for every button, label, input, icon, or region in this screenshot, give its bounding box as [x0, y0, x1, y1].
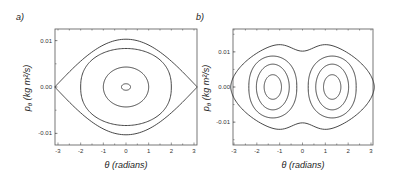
curve-right-orbit-inner	[324, 75, 341, 100]
curve-separatrix	[55, 39, 197, 135]
panel-a-x-ticks: -3-2-10123	[55, 29, 196, 154]
y-tick-label: 0.00	[40, 84, 52, 90]
x-tick-label: 1	[147, 148, 151, 154]
x-tick-label: 0	[301, 148, 305, 154]
curve-orbit-large	[81, 48, 172, 125]
x-tick-label: -1	[101, 148, 107, 154]
panel-a-frame	[55, 29, 197, 145]
x-tick-label: 1	[324, 148, 328, 154]
panel-b-y-axis-label-units: (kg m²/s)	[201, 65, 211, 103]
panel-a-curves	[55, 39, 197, 135]
x-tick-label: 3	[192, 148, 196, 154]
x-tick-label: 3	[369, 148, 373, 154]
curve-left-orbit-inner	[264, 75, 281, 100]
panel-b-x-axis-label: θ (radians)	[282, 160, 325, 170]
panel-b-frame	[233, 29, 373, 145]
x-tick-label: -2	[78, 148, 84, 154]
panel-b-label: b)	[196, 12, 204, 22]
panel-a-x-axis-label: θ (radians)	[105, 160, 148, 170]
curve-orbit-small	[121, 84, 130, 91]
panel-a-y-axis-label-units: (kg m²/s)	[22, 65, 32, 103]
panel-b-curves	[231, 45, 374, 130]
x-tick-label: 0	[124, 148, 128, 154]
y-tick-label: -0.01	[38, 130, 52, 136]
x-tick-label: -1	[277, 148, 283, 154]
curve-outer-orbit	[231, 45, 374, 130]
x-tick-label: 2	[346, 148, 350, 154]
x-tick-label: -3	[55, 148, 61, 154]
curve-right-orbit-mid	[316, 64, 349, 110]
curve-left-orbit-mid	[256, 64, 289, 110]
y-tick-label: 0.00	[218, 84, 230, 90]
panel-a-label: a)	[16, 12, 24, 22]
y-tick-label: -0.01	[216, 119, 230, 125]
panel-b-x-ticks: -3-2-10123	[231, 29, 373, 154]
panel-b-y-axis-label: pθ (kg m²/s)	[201, 65, 212, 112]
panel-a: a) -3-2-10123 0.010.00-0.01 θ (radians) …	[16, 12, 197, 170]
panel-b: b) -3-2-10123 0.010.00-0.01 θ (radians) …	[196, 12, 374, 170]
y-tick-label: 0.01	[40, 38, 52, 44]
x-tick-label: 2	[170, 148, 174, 154]
panel-a-y-axis-label: pθ (kg m²/s)	[22, 65, 33, 112]
x-tick-label: -2	[254, 148, 260, 154]
y-tick-label: 0.01	[218, 49, 230, 55]
x-tick-label: -3	[231, 148, 237, 154]
figure: a) -3-2-10123 0.010.00-0.01 θ (radians) …	[0, 0, 393, 179]
curve-orbit-medium	[103, 67, 148, 107]
